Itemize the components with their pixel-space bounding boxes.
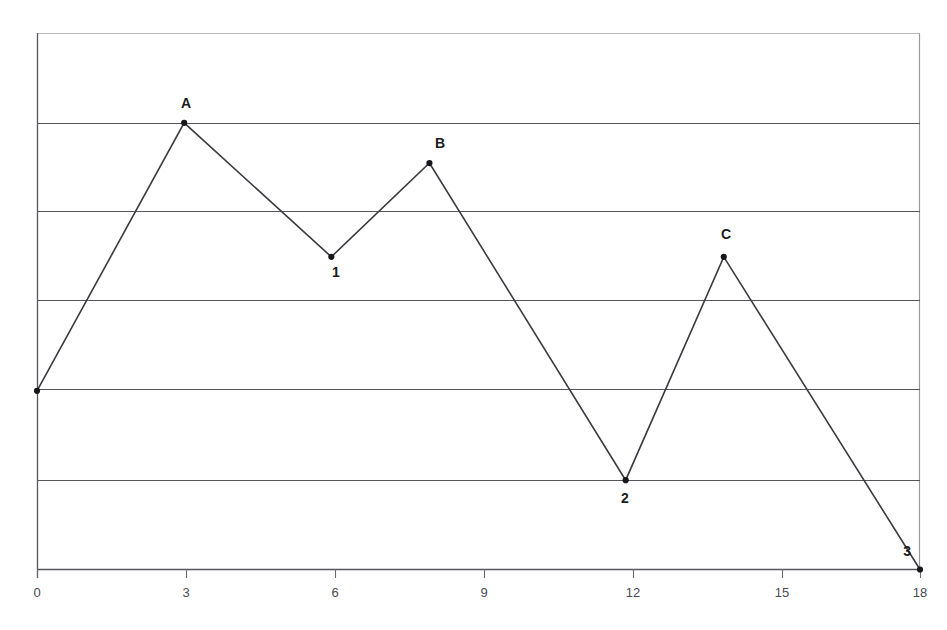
point-annotations: A 1 B 2 C 3 xyxy=(181,95,911,559)
series-line xyxy=(37,123,920,570)
x-tick-label-15: 15 xyxy=(775,585,789,600)
point-label-1: 1 xyxy=(332,264,340,280)
x-tick-label-18: 18 xyxy=(913,585,927,600)
point-label-3: 3 xyxy=(903,543,911,559)
point-label-b: B xyxy=(435,135,445,151)
point-label-a: A xyxy=(181,95,191,111)
point-label-c: C xyxy=(721,226,731,242)
data-point-marker xyxy=(917,566,923,572)
x-tick-label-0: 0 xyxy=(33,585,40,600)
data-point-marker xyxy=(181,120,187,126)
plot-area: 0 3 6 9 12 15 18 A 1 B 2 C 3 xyxy=(0,0,947,630)
x-axis xyxy=(37,569,922,578)
x-tick-label-12: 12 xyxy=(626,585,640,600)
gridlines-horizontal xyxy=(37,124,920,481)
x-tick-label-6: 6 xyxy=(331,585,338,600)
plot-border xyxy=(37,34,920,571)
x-tick-label-3: 3 xyxy=(182,585,189,600)
data-point-marker xyxy=(34,388,40,394)
x-tick-label-9: 9 xyxy=(480,585,487,600)
line-chart: 0 3 6 9 12 15 18 A 1 B 2 C 3 xyxy=(0,0,947,630)
data-point-marker xyxy=(721,254,727,260)
series-markers xyxy=(34,120,923,573)
point-label-2: 2 xyxy=(621,490,629,506)
data-point-marker xyxy=(623,477,629,483)
x-axis-tick-labels: 0 3 6 9 12 15 18 xyxy=(33,585,927,600)
data-point-marker xyxy=(328,254,334,260)
data-point-marker xyxy=(426,160,432,166)
